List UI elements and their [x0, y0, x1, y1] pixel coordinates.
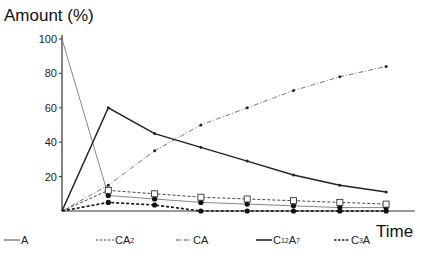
legend-line-thick-dashed-icon: [334, 236, 350, 244]
y-tick-label: 20: [45, 171, 57, 183]
legend-line-thick-solid-icon: [256, 236, 272, 244]
x-axis-title: Time: [376, 222, 413, 242]
series-group: [62, 39, 389, 214]
legend-line-dashdot-icon: [176, 236, 192, 244]
y-tick-label: 80: [45, 67, 57, 79]
y-tick-label: 100: [39, 33, 57, 45]
y-tick-label: 40: [45, 136, 57, 148]
legend-item-c3a: C3A: [334, 234, 370, 246]
y-tick-label: 60: [45, 102, 57, 114]
line-chart: 20406080100: [0, 0, 432, 273]
legend-line-dashed-icon: [96, 236, 114, 244]
y-axis-title: Amount (%): [4, 6, 94, 26]
legend-line-solid-icon: [4, 236, 20, 244]
legend-item-ca2: CA2: [96, 234, 134, 246]
legend-item-c12a7: C12A7: [256, 234, 300, 246]
legend-item-a: A: [4, 234, 28, 246]
legend-item-ca: CA: [176, 234, 208, 246]
axes: 20406080100: [39, 33, 415, 211]
